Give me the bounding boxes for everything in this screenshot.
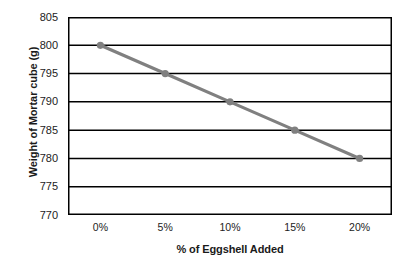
y-axis-tick-label: 775 [0,181,63,192]
y-axis-tick-label: 805 [0,12,63,23]
plot-border [69,18,392,215]
x-axis-tick-label: 20% [349,220,370,234]
data-point [356,155,363,162]
x-axis-tick-labels: 0%5%10%15%20% [68,220,392,236]
x-axis-tick-label: 10% [219,220,240,234]
gridlines [68,45,392,186]
y-axis-tick-label: 800 [0,40,63,51]
y-axis-tick-label: 790 [0,96,63,107]
y-axis-tick-label: 780 [0,153,63,164]
y-axis-tick-label: 785 [0,125,63,136]
data-point [162,70,169,77]
y-axis-tick-labels: 805800795790785780775770 [0,0,63,270]
line-chart: Weight of Mortar cube (g) 80580079579078… [0,0,409,270]
plot-svg [68,17,392,215]
x-axis-tick-label: 15% [284,220,305,234]
x-axis-tick-label: 5% [158,220,173,234]
data-point [97,42,104,49]
data-point [226,98,233,105]
x-axis-tick-label: 0% [93,220,108,234]
x-axis-title: % of Eggshell Added [68,243,392,255]
data-point [291,127,298,134]
y-axis-tick-label: 795 [0,68,63,79]
plot-area [68,17,392,215]
y-axis-tick-label: 770 [0,210,63,221]
